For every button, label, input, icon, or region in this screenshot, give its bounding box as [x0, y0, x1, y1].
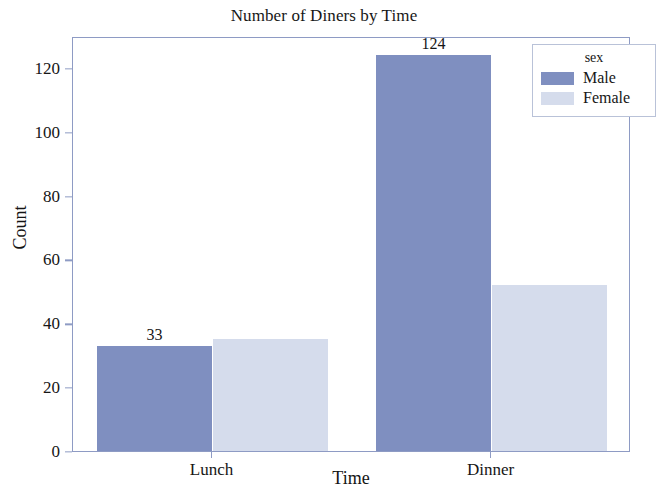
- x-tick-mark: [211, 452, 212, 458]
- y-axis: Count 120100806040200: [0, 37, 72, 452]
- y-tick-label: 40: [0, 314, 60, 334]
- bar-dinner-female: [492, 285, 608, 451]
- y-tick-label: 80: [0, 187, 60, 207]
- y-tick-mark: [65, 451, 72, 452]
- legend-entry-female: Female: [541, 89, 647, 107]
- legend-entries: MaleFemale: [541, 69, 647, 107]
- y-tick-mark: [65, 387, 72, 388]
- legend: sex MaleFemale: [532, 44, 656, 117]
- chart-title: Number of Diners by Time: [0, 6, 648, 26]
- legend-title: sex: [541, 50, 647, 66]
- y-tick-mark: [65, 260, 72, 261]
- bar-value-label: 124: [376, 35, 492, 53]
- bar-dinner-male: [376, 55, 492, 451]
- bar-lunch-male: [97, 346, 213, 451]
- y-tick-label: 120: [0, 59, 60, 79]
- bar-value-label: 33: [97, 326, 213, 344]
- y-tick-mark: [65, 68, 72, 69]
- bar-lunch-female: [213, 339, 329, 451]
- legend-swatch-male: [541, 72, 574, 85]
- y-tick-label: 60: [0, 250, 60, 270]
- legend-label: Male: [583, 69, 616, 87]
- y-axis-label: Count: [10, 128, 31, 328]
- legend-entry-male: Male: [541, 69, 647, 87]
- x-tick-mark: [490, 452, 491, 458]
- legend-label: Female: [583, 89, 630, 107]
- y-tick-mark: [65, 196, 72, 197]
- legend-swatch-female: [541, 92, 574, 105]
- y-tick-label: 0: [0, 442, 60, 462]
- y-tick-mark: [65, 324, 72, 325]
- y-tick-mark: [65, 132, 72, 133]
- x-axis-label: Time: [72, 468, 630, 489]
- y-tick-label: 100: [0, 123, 60, 143]
- y-tick-label: 20: [0, 378, 60, 398]
